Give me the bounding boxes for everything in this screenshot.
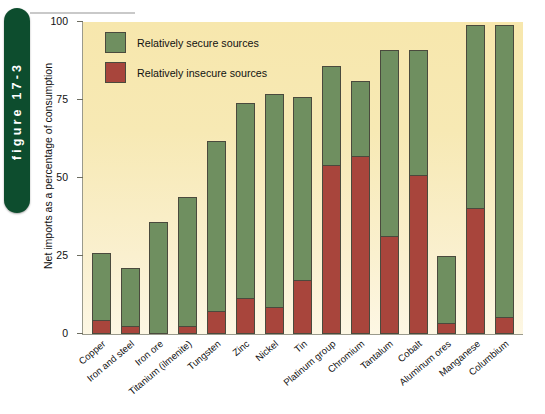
bar-segment-secure [410,51,427,174]
x-label-slot: Chromium [345,336,374,414]
bar-segment-secure [266,95,283,308]
stacked-bar[interactable] [380,50,399,334]
bar-slot [346,22,375,334]
stacked-bar[interactable] [121,268,140,334]
y-axis-tick-label: 75 [56,93,68,105]
bar-segment-secure [438,257,455,323]
stacked-bar[interactable] [92,253,111,334]
bar-segment-secure [122,269,139,326]
bar-slot [404,22,433,334]
bar-segment-secure [93,254,110,320]
bar-slot [289,22,318,334]
y-axis-tick-label: 50 [56,171,68,183]
bar-segment-insecure [323,165,340,333]
stacked-bar[interactable] [351,81,370,334]
bar-segment-secure [323,67,340,166]
stacked-bar[interactable] [466,25,485,334]
bar-segment-secure [381,51,398,236]
x-label-slot: Titanium (ilmenite) [172,336,201,414]
legend-item: Relatively secure sources [105,32,267,53]
stacked-bar[interactable] [322,66,341,334]
chart-plot-area: 0255075100 Relatively secure sourcesRela… [82,22,523,335]
stacked-bar[interactable] [265,94,284,334]
legend-swatch-icon [105,32,126,53]
stacked-bar[interactable] [409,50,428,334]
bar-segment-secure [179,198,196,326]
stacked-bar[interactable] [437,256,456,334]
x-label-slot: Zinc [230,336,259,414]
x-label-slot: Platinum group [316,336,345,414]
x-label-slot: Tantalum [374,336,403,414]
bar-segment-insecure [93,320,110,333]
bar-slot [317,22,346,334]
legend-label: Relatively insecure sources [137,67,267,79]
bar-segment-insecure [122,326,139,333]
bar-segment-insecure [352,156,369,333]
y-axis-tick-label: 25 [56,249,68,261]
x-axis-label: Tin [292,338,309,355]
bar-segment-insecure [496,317,513,333]
bar-slot [461,22,490,334]
bar-segment-insecure [467,208,484,333]
x-label-slot: Nickel [259,336,288,414]
bar-segment-insecure [179,326,196,333]
figure-number-label: figure 17-3 [10,61,24,159]
bar-slot [375,22,404,334]
stacked-bar[interactable] [178,197,197,334]
x-label-slot: Tungsten [201,336,230,414]
header-rule [30,12,135,14]
bar-slot [433,22,462,334]
legend-swatch-icon [105,62,126,83]
bar-segment-secure [496,26,513,316]
stacked-bar[interactable] [236,103,255,334]
chart-legend: Relatively secure sourcesRelatively inse… [105,32,267,92]
legend-label: Relatively secure sources [137,37,259,49]
x-label-slot: Iron and steel [115,336,144,414]
bar-segment-insecure [438,323,455,333]
bar-segment-insecure [381,236,398,333]
y-axis-tick-label: 100 [50,15,68,27]
stacked-bar[interactable] [149,222,168,334]
bar-segment-insecure [294,280,311,333]
bar-segment-secure [467,26,484,208]
y-axis-tick-label: 0 [62,327,68,339]
bar-segment-insecure [237,298,254,333]
stacked-bar[interactable] [293,97,312,334]
y-axis-title: Net imports as a percentage of consumpti… [42,26,54,306]
stacked-bar[interactable] [495,25,514,334]
x-axis-labels: CopperIron and steelIron oreTitanium (il… [82,336,522,414]
figure-number-tab: figure 17-3 [4,8,30,213]
bar-segment-secure [352,82,369,156]
bar-slot [490,22,519,334]
bar-segment-insecure [266,307,283,333]
bar-segment-insecure [208,311,225,334]
x-axis-label: Zinc [231,338,252,358]
x-label-slot: Columbium [489,336,518,414]
bar-segment-secure [150,223,167,333]
bar-segment-secure [208,142,225,311]
bar-segment-secure [294,98,311,280]
stacked-bar[interactable] [207,141,226,334]
bar-segment-secure [237,104,254,298]
legend-item: Relatively insecure sources [105,62,267,83]
bar-segment-insecure [410,175,427,333]
